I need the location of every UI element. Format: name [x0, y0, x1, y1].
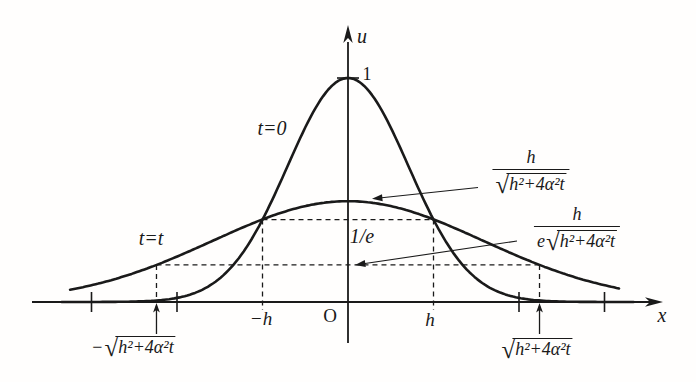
- leader-line-flat-peak: [377, 188, 478, 199]
- e-factor: e: [537, 231, 545, 251]
- u-axis-arrowhead: [343, 25, 352, 43]
- h-label: h: [425, 310, 435, 329]
- formula-numerator: h: [492, 147, 569, 169]
- radicand: h²+4α²t: [557, 230, 617, 251]
- formula-denominator: √h²+4α²t: [492, 169, 569, 194]
- leader-line-flat-inv-e: [360, 241, 517, 264]
- formula-numerator: h: [534, 204, 620, 226]
- u-axis-label: u: [357, 26, 367, 46]
- peak-one-label: 1: [363, 65, 372, 83]
- radicand: h²+4α²t: [512, 338, 572, 359]
- radicand: h²+4α²t: [115, 336, 175, 357]
- minus-sign: −: [92, 337, 102, 357]
- figure: u x O 1 1/e −h h t=0 t=t h √h²+4α²t h e√…: [0, 0, 696, 382]
- minus-h-label: −h: [250, 309, 272, 328]
- curve-label-tt: t=t: [139, 228, 164, 248]
- leader-arrowhead-flat-peak: [372, 194, 383, 201]
- formula-minus-root: −√h²+4α²t: [92, 336, 175, 357]
- one-over-e-label: 1/e: [350, 226, 374, 246]
- figure-plot: [0, 0, 696, 382]
- formula-denominator: e√h²+4α²t: [534, 226, 620, 251]
- leader-arrowhead-flat-inv-e: [355, 260, 366, 267]
- formula-plus-root: √h²+4α²t: [501, 338, 572, 359]
- formula-flat-over-e-value: h e√h²+4α²t: [534, 204, 620, 251]
- origin-label: O: [323, 306, 337, 325]
- x-axis-label: x: [658, 305, 667, 325]
- formula-flat-peak-value: h √h²+4α²t: [492, 147, 569, 194]
- radicand: h²+4α²t: [506, 173, 566, 194]
- curve-label-t0: t=0: [257, 118, 286, 138]
